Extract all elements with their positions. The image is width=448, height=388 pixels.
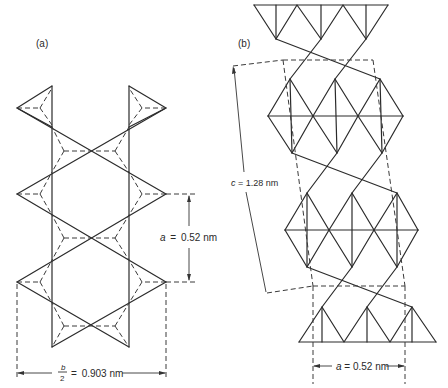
panel-b-bottom-tetrahedral-band bbox=[299, 307, 436, 342]
panel-a-dimension-a: a = 0.52 nm bbox=[160, 194, 217, 282]
panel-a-dimension-b-half: b 2 = 0.903 nm bbox=[17, 284, 166, 383]
dimension-b-half-label: = 0.903 nm bbox=[71, 368, 123, 379]
panel-a: (a) bbox=[17, 38, 217, 383]
arrowhead-icon bbox=[313, 364, 320, 368]
panel-b-link-middle bbox=[292, 153, 397, 193]
dimension-a-bottom-label: a = 0.52 nm bbox=[336, 361, 389, 372]
panel-a-hidden-bonds bbox=[17, 88, 166, 347]
panel-b-octahedral-layer-2 bbox=[285, 193, 418, 267]
fraction-denominator-2: 2 bbox=[60, 374, 65, 383]
panel-b-dimension-c: c = 1.28 nm bbox=[231, 66, 278, 292]
arrowhead-icon bbox=[187, 195, 191, 202]
panel-b-label: (b) bbox=[238, 38, 250, 49]
arrowhead-icon bbox=[232, 66, 236, 74]
dimension-c-label: c = 1.28 nm bbox=[231, 178, 278, 188]
arrowhead-icon bbox=[159, 371, 166, 375]
panel-a-tetrahedra-edges bbox=[17, 86, 166, 347]
panel-b: (b) bbox=[231, 5, 436, 384]
arrowhead-icon bbox=[398, 364, 405, 368]
panel-a-chain-verticals bbox=[52, 86, 129, 347]
panel-b-link-lower bbox=[307, 267, 412, 307]
crystal-structure-figure: (a) bbox=[0, 0, 448, 388]
dimension-a-label: a = 0.52 nm bbox=[160, 232, 217, 243]
panel-a-label: (a) bbox=[36, 38, 48, 49]
panel-b-dimension-a: a = 0.52 nm bbox=[313, 361, 405, 372]
panel-b-top-tetrahedral-band bbox=[254, 5, 388, 39]
arrowhead-icon bbox=[17, 371, 24, 375]
fraction-numerator-b: b bbox=[61, 363, 66, 372]
arrowhead-icon bbox=[187, 274, 191, 281]
panel-b-octahedral-layer-1 bbox=[268, 79, 403, 153]
panel-b-link-upper bbox=[276, 39, 380, 79]
